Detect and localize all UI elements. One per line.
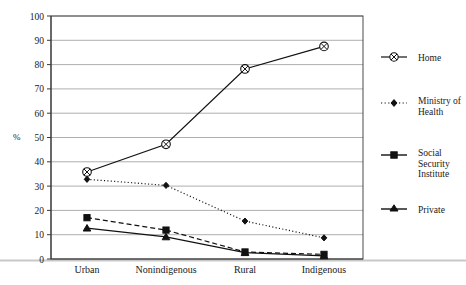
y-tick-label: 20 [35, 206, 45, 216]
x-tick-label-urban: Urban [75, 264, 100, 275]
y-tick-label: 40 [35, 157, 45, 167]
legend-label-social-security-institute-3: Institute [418, 169, 449, 179]
square-icon [391, 152, 397, 158]
square-icon [163, 227, 169, 233]
legend-label-ministry-of-health-1: Ministry of [418, 96, 462, 106]
legend-label-social-security-institute-1: Social [418, 148, 442, 158]
y-axis-title: % [13, 132, 21, 142]
legend-label-ministry-of-health-2: Health [418, 107, 444, 117]
x-tick-label-indigenous: Indigenous [302, 264, 347, 275]
y-tick-label: 90 [35, 36, 45, 46]
line-chart: 100 90 80 70 60 50 40 30 20 10 0 % Urban… [0, 0, 466, 285]
square-icon [84, 215, 90, 221]
x-tick-label-nonindigenous: Nonindigenous [135, 264, 196, 275]
y-tick-label: 70 [35, 84, 45, 94]
data-point [241, 65, 250, 74]
chart-root: 100 90 80 70 60 50 40 30 20 10 0 % Urban… [0, 0, 466, 285]
data-point [84, 215, 90, 221]
legend-label-social-security-institute-2: Security [418, 159, 450, 169]
y-tick-label: 100 [30, 12, 45, 22]
data-point [320, 42, 329, 51]
y-tick-label: 30 [35, 182, 45, 192]
chart-background [0, 0, 466, 285]
data-point [162, 140, 171, 149]
data-point [83, 168, 92, 177]
x-tick-label-rural: Rural [234, 264, 256, 275]
data-point [163, 227, 169, 233]
y-tick-label: 0 [39, 255, 44, 265]
y-tick-label: 80 [35, 60, 45, 70]
y-tick-label: 60 [35, 109, 45, 119]
legend-label-home: Home [418, 53, 441, 63]
y-tick-label: 10 [35, 230, 45, 240]
y-tick-label: 50 [35, 133, 45, 143]
legend-label-private: Private [418, 205, 445, 215]
